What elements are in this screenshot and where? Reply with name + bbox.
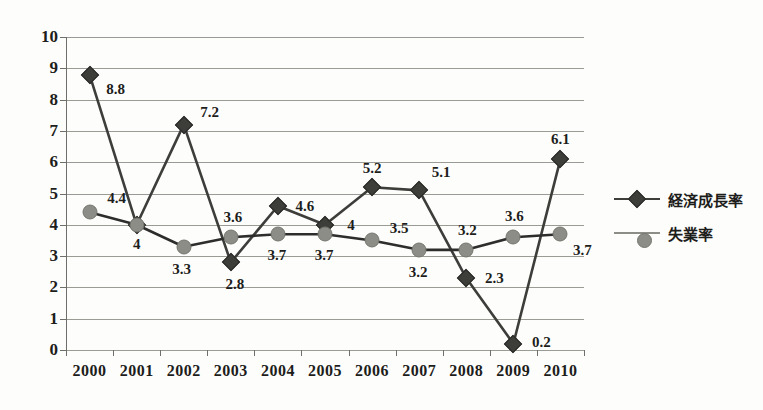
y-axis-tick-label: 2 (24, 277, 58, 297)
y-axis-tick-label: 1 (24, 309, 58, 329)
x-axis-tick (301, 350, 302, 356)
legend-line (614, 232, 660, 234)
data-point-marker-circle (82, 205, 97, 220)
data-point-marker-circle (553, 227, 568, 242)
y-axis-tick (60, 350, 67, 351)
x-axis-tick (443, 350, 444, 356)
x-axis-tick (349, 350, 350, 356)
y-axis-tick-label: 3 (24, 246, 58, 266)
data-point-label: 4.4 (107, 190, 126, 207)
data-point-marker-circle (365, 233, 380, 248)
x-axis-tick (490, 350, 491, 356)
legend-swatch (614, 192, 660, 206)
data-point-label: 8.8 (106, 80, 125, 97)
data-point-marker-circle (223, 230, 238, 245)
data-point-label: 3.3 (172, 260, 191, 277)
x-axis-tick (160, 350, 161, 356)
data-point-label: 5.2 (363, 160, 382, 177)
data-point-marker-circle (412, 242, 427, 257)
x-axis-tick (113, 350, 114, 356)
y-axis-tick (60, 37, 67, 38)
data-point-label: 3.6 (223, 209, 242, 226)
y-axis-tick-label: 9 (24, 58, 58, 78)
series-lines (66, 37, 584, 350)
data-point-label: 3.7 (573, 242, 592, 259)
y-axis-tick (60, 287, 67, 288)
data-point-label: 3.7 (268, 247, 287, 264)
data-point-label: 4 (133, 235, 141, 252)
x-axis-tick-label: 2010 (530, 362, 590, 380)
data-point-marker-circle (176, 239, 191, 254)
plot-area: 8.847.22.84.645.25.12.30.26.14.43.33.63.… (66, 37, 584, 350)
y-axis-tick-label: 10 (24, 27, 58, 47)
legend-swatch (614, 226, 660, 240)
legend-label: 失業率 (668, 223, 713, 244)
legend-label: 経済成長率 (668, 189, 743, 210)
data-point-label: 3.5 (390, 220, 409, 237)
data-point-label: 2.8 (225, 276, 244, 293)
data-point-label: 2.3 (485, 270, 504, 287)
data-point-label: 6.1 (551, 131, 570, 148)
legend-marker-diamond-icon (628, 190, 646, 208)
y-axis-tick (60, 100, 67, 101)
data-point-label: 0.2 (532, 333, 551, 350)
data-point-label: 3.7 (315, 247, 334, 264)
data-point-label: 3.2 (458, 221, 477, 238)
y-axis-tick (60, 319, 67, 320)
data-point-marker-circle (129, 217, 144, 232)
y-axis-tick-label: 8 (24, 90, 58, 110)
legend-marker-circle-icon (637, 233, 652, 248)
y-axis-tick-label: 0 (24, 340, 58, 360)
data-point-label: 4.6 (296, 198, 315, 215)
y-axis-tick (60, 131, 67, 132)
data-point-label: 5.1 (432, 164, 451, 181)
series-line-1 (90, 75, 561, 344)
y-axis-tick-label: 7 (24, 121, 58, 141)
legend-item-1[interactable]: 経済成長率 (614, 182, 759, 216)
data-point-marker-circle (506, 230, 521, 245)
x-axis-tick (396, 350, 397, 356)
data-point-label: 7.2 (200, 103, 219, 120)
legend-item-2[interactable]: 失業率 (614, 216, 759, 250)
x-axis-tick (254, 350, 255, 356)
data-point-marker-circle (318, 227, 333, 242)
y-axis-tick (60, 256, 67, 257)
chart-legend: 経済成長率失業率 (614, 182, 759, 250)
y-axis-tick-label: 5 (24, 184, 58, 204)
data-point-label: 3.2 (409, 263, 428, 280)
x-axis-tick (584, 350, 585, 356)
y-axis-tick-label: 6 (24, 152, 58, 172)
y-axis-tick (60, 225, 67, 226)
y-axis-tick (60, 162, 67, 163)
y-axis-labels: 109876543210 (18, 37, 58, 350)
y-axis-tick-label: 4 (24, 215, 58, 235)
line-chart: 109876543210 8.847.22.84.645.25.12.30.26… (0, 0, 763, 410)
data-point-marker-circle (459, 242, 474, 257)
data-point-label: 4 (347, 216, 355, 233)
data-point-label: 3.6 (505, 208, 524, 225)
data-point-marker-circle (270, 227, 285, 242)
gridline (66, 350, 584, 351)
y-axis-tick (60, 68, 67, 69)
x-axis-tick (207, 350, 208, 356)
x-axis-tick (537, 350, 538, 356)
y-axis-tick (60, 194, 67, 195)
